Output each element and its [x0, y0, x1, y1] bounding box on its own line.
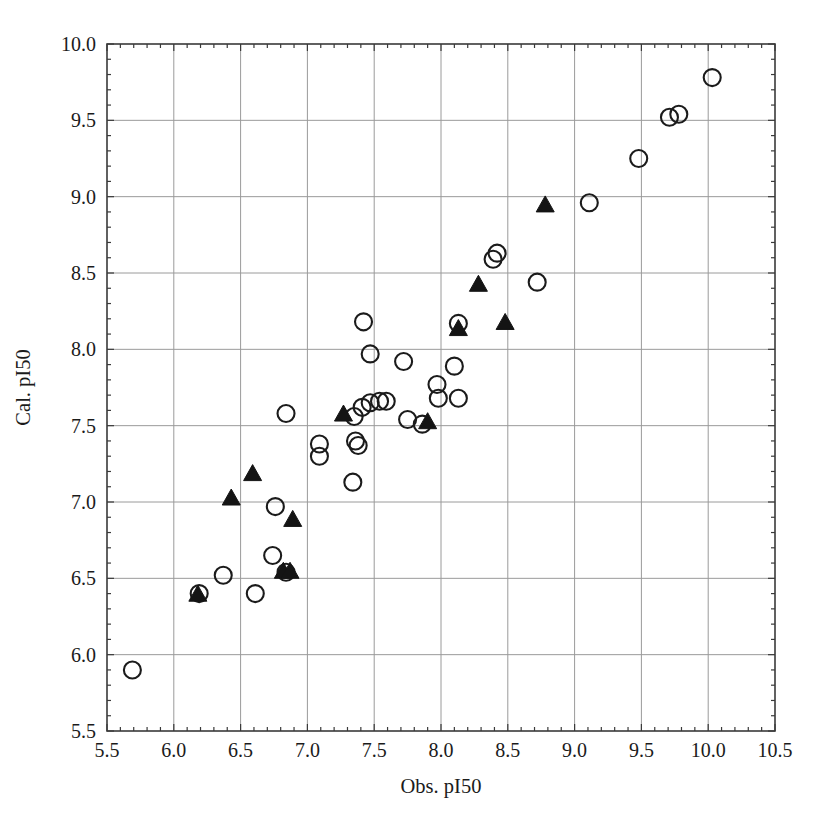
- data-point-triangle: [222, 489, 240, 505]
- data-point-circle: [311, 448, 328, 465]
- y-tick-label: 5.5: [71, 720, 96, 742]
- data-point-circle: [581, 194, 598, 211]
- x-tick-label: 9.0: [562, 739, 587, 761]
- x-tick-label: 8.0: [429, 739, 454, 761]
- data-point-circle: [264, 547, 281, 564]
- x-tick-label: 10.0: [691, 739, 726, 761]
- y-tick-label: 8.0: [71, 338, 96, 360]
- data-point-circle: [350, 437, 367, 454]
- y-tick-label: 8.5: [71, 262, 96, 284]
- y-tick-label: 6.0: [71, 644, 96, 666]
- series-training-set: [124, 69, 721, 678]
- data-point-circle: [267, 498, 284, 515]
- data-point-circle: [215, 567, 232, 584]
- scatter-plot-canvas: 5.56.06.57.07.58.08.59.09.510.010.55.56.…: [0, 0, 829, 826]
- x-tick-label: 9.5: [629, 739, 654, 761]
- data-point-circle: [355, 313, 372, 330]
- data-point-circle: [704, 69, 721, 86]
- data-point-triangle: [469, 275, 487, 291]
- scatter-plot-figure: 5.56.06.57.07.58.08.59.09.510.010.55.56.…: [0, 0, 829, 826]
- data-point-circle: [378, 393, 395, 410]
- data-point-circle: [395, 353, 412, 370]
- data-point-circle: [362, 345, 379, 362]
- x-tick-label: 10.5: [758, 739, 793, 761]
- data-points: [124, 69, 721, 678]
- data-point-circle: [430, 390, 447, 407]
- data-point-circle: [278, 405, 295, 422]
- data-point-triangle: [496, 313, 514, 329]
- data-point-circle: [529, 274, 546, 291]
- x-tick-label: 6.5: [228, 739, 253, 761]
- caption-strip: [0, 805, 829, 826]
- x-tick-label: 7.5: [362, 739, 387, 761]
- data-point-circle: [124, 661, 141, 678]
- tick-labels: 5.56.06.57.07.58.08.59.09.510.010.55.56.…: [61, 33, 793, 761]
- y-tick-label: 6.5: [71, 567, 96, 589]
- data-point-circle: [489, 245, 506, 262]
- y-tick-label: 9.0: [71, 186, 96, 208]
- data-point-circle: [247, 585, 264, 602]
- data-point-circle: [446, 358, 463, 375]
- y-tick-label: 7.5: [71, 415, 96, 437]
- y-axis-title: Cal. pI50: [12, 349, 35, 425]
- data-point-circle: [670, 106, 687, 123]
- data-point-circle: [630, 150, 647, 167]
- data-point-triangle: [244, 465, 262, 481]
- x-tick-label: 7.0: [295, 739, 320, 761]
- y-tick-label: 7.0: [71, 491, 96, 513]
- x-tick-label: 6.0: [161, 739, 186, 761]
- y-tick-label: 10.0: [61, 33, 96, 55]
- y-tick-label: 9.5: [71, 109, 96, 131]
- x-tick-label: 8.5: [495, 739, 520, 761]
- data-point-triangle: [536, 196, 554, 212]
- data-point-circle: [344, 474, 361, 491]
- data-point-triangle: [284, 510, 302, 526]
- data-point-circle: [450, 390, 467, 407]
- x-axis-title: Obs. pI50: [401, 775, 482, 798]
- x-tick-label: 5.5: [95, 739, 120, 761]
